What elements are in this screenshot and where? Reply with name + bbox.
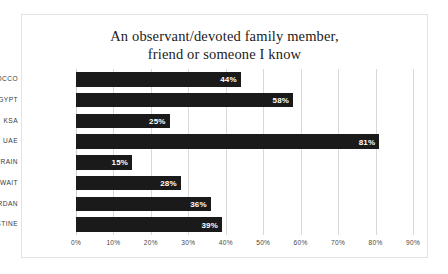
chart-title-line-1: An observant/devoted family member, — [22, 27, 427, 45]
x-tick-0: 0% — [71, 239, 81, 246]
category-label-egypt: EGYPT — [0, 90, 18, 111]
bar-egypt: 58% — [76, 93, 293, 108]
bar-bahrain: 15% — [76, 155, 132, 170]
bar-jordan: 36% — [76, 197, 211, 212]
x-tick-10: 10% — [106, 239, 120, 246]
bar-row: 39% — [76, 214, 413, 235]
category-label-ksa: KSA — [0, 111, 18, 132]
bar-value-label: 81% — [359, 137, 376, 146]
x-tick-60: 60% — [294, 239, 308, 246]
chart-title: An observant/devoted family member, frie… — [22, 27, 427, 63]
x-tick-50: 50% — [256, 239, 270, 246]
bar-row: 28% — [76, 173, 413, 194]
category-axis-labels: MOROCCOEGYPTKSAUAEBAHRAINKUWAITJORDANPAL… — [0, 69, 18, 235]
bar-row: 58% — [76, 90, 413, 111]
bar-palestine: 39% — [76, 217, 222, 232]
category-label-bahrain: BAHRAIN — [0, 152, 18, 173]
bar-row: 15% — [76, 152, 413, 173]
bar-value-label: 28% — [160, 179, 177, 188]
bar-morocco: 44% — [76, 72, 241, 87]
bar-rows: 44%58%25%81%15%28%36%39% — [76, 69, 413, 235]
bar-value-label: 39% — [201, 220, 218, 229]
category-label-morocco: MOROCCO — [0, 69, 18, 90]
x-tick-90: 90% — [406, 239, 420, 246]
bar-uae: 81% — [76, 134, 379, 149]
bar-value-label: 58% — [273, 96, 290, 105]
bar-row: 36% — [76, 194, 413, 215]
category-label-uae: UAE — [0, 131, 18, 152]
category-label-kuwait: KUWAIT — [0, 173, 18, 194]
bar-value-label: 25% — [149, 116, 166, 125]
bar-row: 44% — [76, 69, 413, 90]
chart-title-line-2: friend or someone I know — [22, 45, 427, 63]
x-tick-80: 80% — [368, 239, 382, 246]
x-tick-40: 40% — [219, 239, 233, 246]
bar-value-label: 36% — [190, 199, 207, 208]
bar-row: 81% — [76, 131, 413, 152]
x-axis-tick-labels: 0%10%20%30%40%50%60%70%80%90% — [76, 239, 413, 253]
plot-area: 44%58%25%81%15%28%36%39% — [76, 69, 413, 235]
x-tick-30: 30% — [181, 239, 195, 246]
x-tick-20: 20% — [144, 239, 158, 246]
category-label-palestine: PALESTINE — [0, 214, 18, 235]
gridline-90 — [413, 69, 414, 235]
bar-ksa: 25% — [76, 114, 170, 129]
x-tick-70: 70% — [331, 239, 345, 246]
bar-kuwait: 28% — [76, 176, 181, 191]
category-label-jordan: JORDAN — [0, 194, 18, 215]
bar-value-label: 44% — [220, 75, 237, 84]
bar-row: 25% — [76, 111, 413, 132]
bar-value-label: 15% — [112, 158, 129, 167]
chart-figure: An observant/devoted family member, frie… — [21, 14, 428, 258]
